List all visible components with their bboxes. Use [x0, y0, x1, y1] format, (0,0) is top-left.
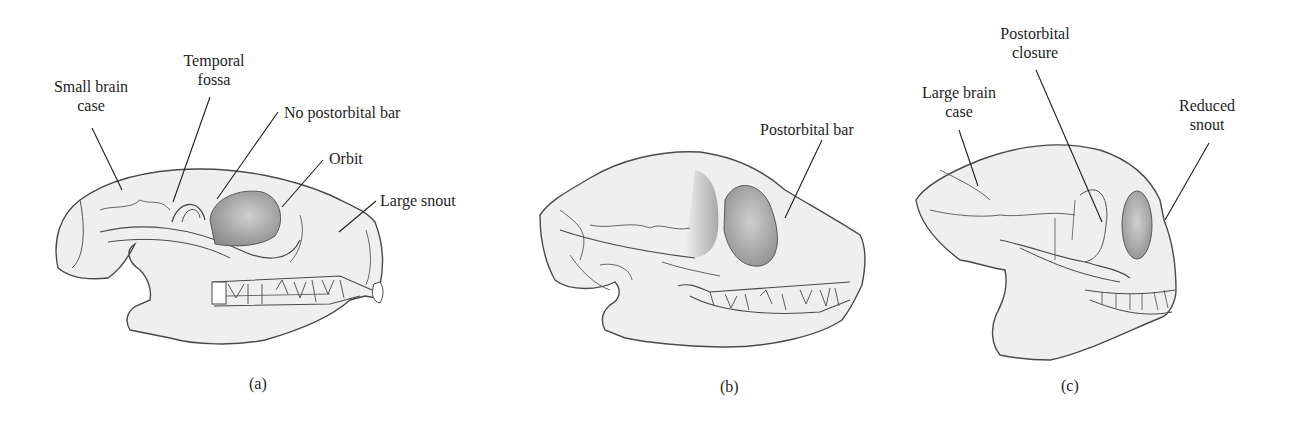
caption-a: (a): [249, 374, 267, 393]
label-reduced-snout: Reduced snout: [1162, 96, 1252, 134]
leader-reduced-snout: [1165, 143, 1209, 220]
label-large-snout: Large snout: [380, 191, 456, 210]
skull-b-drawing: [520, 0, 920, 431]
panel-b-primate-skull-postorbital-bar: Postorbital bar (b): [520, 0, 920, 431]
caption-b: (b): [720, 377, 739, 396]
skull-c-drawing: [880, 0, 1294, 431]
label-no-postorbital-bar: No postorbital bar: [284, 103, 400, 122]
panel-c-primate-skull-postorbital-closure: Postorbital closure Large brain case Red…: [880, 0, 1294, 431]
label-postorbital-bar: Postorbital bar: [760, 120, 854, 139]
panel-a-primitive-mammal-skull: Small brain case Temporal fossa No posto…: [0, 0, 440, 431]
leader-small-brain-case: [92, 128, 122, 190]
label-small-brain-case: Small brain case: [36, 77, 146, 115]
caption-c: (c): [1061, 376, 1079, 395]
label-postorbital-closure: Postorbital closure: [980, 24, 1090, 62]
label-orbit: Orbit: [329, 149, 363, 168]
label-temporal-fossa: Temporal fossa: [166, 51, 262, 89]
label-large-brain-case: Large brain case: [904, 83, 1014, 121]
